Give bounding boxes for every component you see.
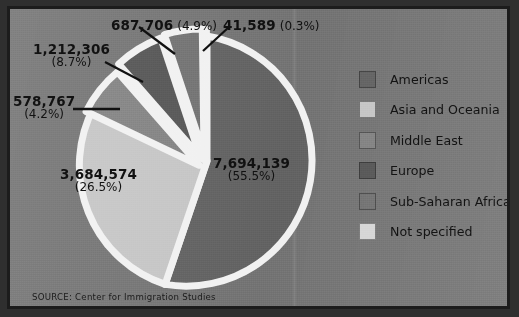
legend-swatch-asia-and-oceania [359, 101, 376, 118]
legend-item-middle-east[interactable]: Middle East [359, 125, 510, 156]
slice-percent-asia-and-oceania: (26.5%) [60, 181, 137, 194]
slice-label-americas: 7,694,139 (55.5%) [213, 156, 290, 183]
legend-item-sub-saharan-africa[interactable]: Sub-Saharan Africa [359, 186, 510, 217]
slice-value-sub-saharan-africa: 687,706 [111, 17, 173, 33]
legend-label-americas: Americas [390, 72, 449, 87]
slice-percent-sub-saharan-africa: (4.9%) [177, 19, 217, 33]
legend-label-sub-saharan-africa: Sub-Saharan Africa [390, 194, 510, 209]
slice-value-europe: 1,212,306 [33, 42, 110, 56]
slice-value-middle-east: 578,767 [13, 94, 75, 108]
slice-percent-europe: (8.7%) [33, 56, 110, 69]
slice-percent-middle-east: (4.2%) [13, 108, 75, 121]
slice-percent-americas: (55.5%) [213, 170, 290, 183]
slice-value-americas: 7,694,139 [213, 156, 290, 170]
legend-item-americas[interactable]: Americas [359, 64, 510, 95]
legend-swatch-sub-saharan-africa [359, 193, 376, 210]
slice-label-sub-saharan-africa: 687,706(4.9%) [111, 17, 217, 34]
slice-label-middle-east: 578,767 (4.2%) [13, 94, 75, 121]
legend-swatch-americas [359, 71, 376, 88]
legend-label-europe: Europe [390, 163, 434, 178]
legend-swatch-middle-east [359, 132, 376, 149]
chart-plate: 687,706(4.9%) 41,589(0.3%) 1,212,306 (8.… [7, 6, 510, 309]
legend-item-asia-and-oceania[interactable]: Asia and Oceania [359, 95, 510, 126]
legend-swatch-not-specified [359, 223, 376, 240]
source-note: SOURCE: Center for Immigration Studies [32, 292, 216, 302]
legend: Americas Asia and Oceania Middle East Eu… [359, 64, 510, 247]
legend-item-not-specified[interactable]: Not specified [359, 217, 510, 248]
legend-item-europe[interactable]: Europe [359, 156, 510, 187]
slice-value-asia-and-oceania: 3,684,574 [60, 167, 137, 181]
legend-swatch-europe [359, 162, 376, 179]
figure-frame: 687,706(4.9%) 41,589(0.3%) 1,212,306 (8.… [0, 0, 519, 317]
slice-label-not-specified: 41,589(0.3%) [223, 17, 320, 34]
slice-label-europe: 1,212,306 (8.7%) [33, 42, 110, 69]
slice-percent-not-specified: (0.3%) [280, 19, 320, 33]
slice-label-asia-and-oceania: 3,684,574 (26.5%) [60, 167, 137, 194]
legend-label-not-specified: Not specified [390, 224, 472, 239]
legend-label-asia-and-oceania: Asia and Oceania [390, 102, 500, 117]
legend-label-middle-east: Middle East [390, 133, 463, 148]
slice-value-not-specified: 41,589 [223, 17, 276, 33]
